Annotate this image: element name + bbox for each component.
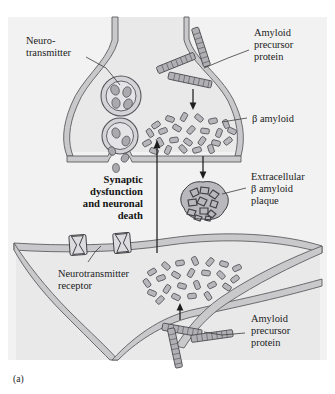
app-top-line1: Amyloid — [254, 27, 292, 38]
neurotransmitter-line1: Neuro- — [26, 35, 56, 46]
receptor-line2: receptor — [58, 280, 93, 291]
plaque-line2: β amyloid — [251, 183, 294, 194]
neurotransmitter-line2: transmitter — [26, 47, 72, 58]
plaque-line1: Extracellular — [251, 171, 305, 182]
figure-caption: (a) — [13, 373, 24, 385]
synaptic-line4: death — [118, 210, 143, 221]
app-top-line2: precursor — [254, 39, 294, 50]
synaptic-line2: dysfunction — [90, 186, 143, 197]
beta-amyloid-text: β amyloid — [252, 113, 295, 124]
synaptic-line3: and neuronal — [83, 198, 143, 209]
app-bottom-line2: precursor — [251, 325, 291, 336]
receptor-line1: Neurotransmitter — [58, 268, 130, 279]
synaptic-line1: Synaptic — [104, 174, 144, 185]
figure-panel: Neuro- transmitter Amyloid precursor pro… — [0, 0, 335, 394]
neurotransmitter-receptor — [69, 234, 87, 255]
app-top-line3: protein — [254, 51, 284, 62]
label-beta-amyloid: β amyloid — [252, 113, 295, 124]
fusing-vesicle — [102, 118, 138, 154]
app-bottom-line3: protein — [251, 337, 281, 348]
synaptic-vesicle — [101, 76, 141, 116]
amyloid-synapse-diagram: Neuro- transmitter Amyloid precursor pro… — [0, 0, 335, 394]
neurotransmitter-receptor — [113, 232, 132, 253]
plaque-line3: plaque — [251, 195, 279, 206]
app-bottom-line1: Amyloid — [251, 313, 289, 324]
